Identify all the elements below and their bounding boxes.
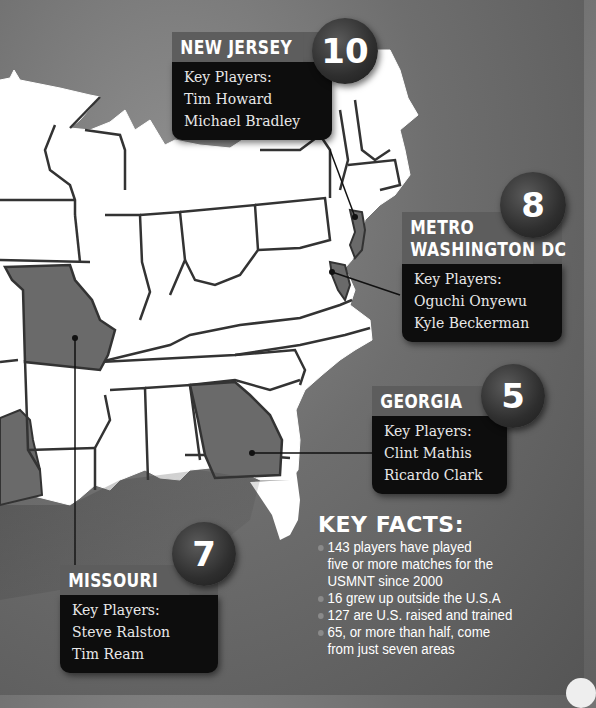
- region-name: GEORGIA: [372, 386, 483, 416]
- player-name: Steve Ralston: [72, 621, 208, 643]
- count-badge-new-jersey: 10: [312, 18, 378, 84]
- key-players-label: Key Players:: [184, 66, 322, 88]
- key-facts-title: KEY FACTS:: [318, 512, 578, 537]
- key-facts: KEY FACTS: 143 players have played five …: [318, 512, 578, 658]
- player-name: Oguchi Onyewu: [414, 290, 552, 312]
- player-name: Michael Bradley: [184, 110, 322, 132]
- player-name: Kyle Beckerman: [414, 312, 552, 334]
- player-name: Tim Howard: [184, 88, 322, 110]
- player-name: Clint Mathis: [384, 442, 497, 464]
- region-name: MISSOURI: [60, 565, 190, 595]
- player-name: Ricardo Clark: [384, 464, 497, 486]
- key-players-label: Key Players:: [384, 420, 497, 442]
- count-badge-georgia: 5: [481, 364, 545, 428]
- fact-item: 65, or more than half, come from just se…: [318, 624, 503, 658]
- count-badge-metro-washington-dc: 8: [500, 172, 566, 238]
- corner-decoration: [566, 678, 596, 708]
- key-players-label: Key Players:: [72, 599, 208, 621]
- region-name: NEW JERSEY: [172, 32, 303, 62]
- count-badge-missouri: 7: [172, 522, 236, 586]
- fact-item: 127 are U.S. raised and trained: [318, 607, 565, 624]
- fact-item: 143 players have played five or more mat…: [318, 539, 494, 590]
- region-name-line2: WASHINGTON DC: [402, 238, 533, 264]
- fact-item: 16 grew up outside the U.S.A: [318, 590, 565, 607]
- player-name: Tim Ream: [72, 643, 208, 665]
- callout-new-jersey: NEW JERSEY Key Players: Tim Howard Micha…: [172, 32, 332, 140]
- key-players-label: Key Players:: [414, 268, 552, 290]
